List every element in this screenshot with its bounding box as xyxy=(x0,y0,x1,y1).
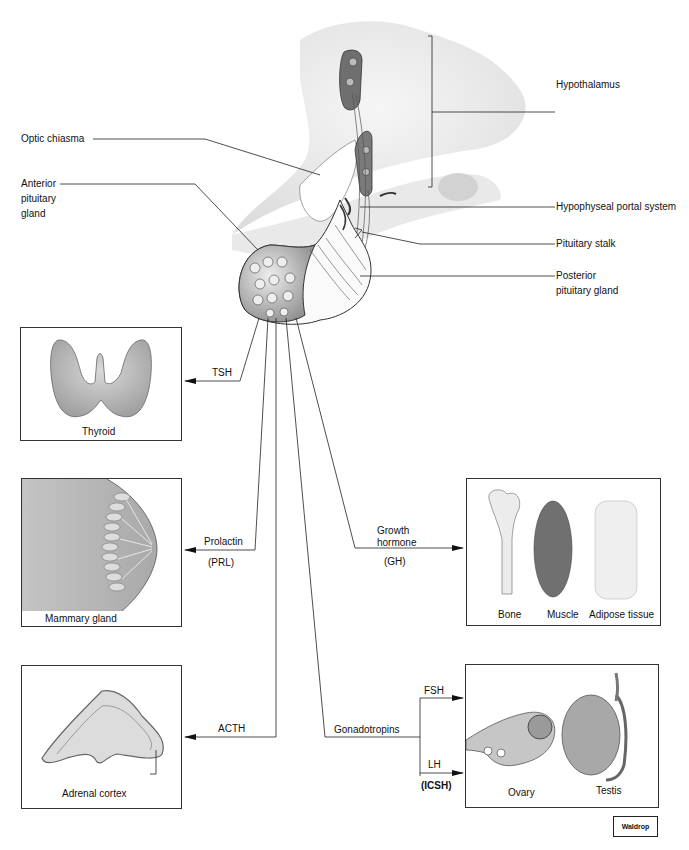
adrenal-cortex-icon xyxy=(22,666,181,808)
caption-adipose: Adipose tissue xyxy=(589,609,654,620)
label-anterior-pituitary-3: gland xyxy=(21,208,45,220)
ovary-testis-icon xyxy=(466,665,658,807)
bone-muscle-adipose-icon xyxy=(467,479,660,625)
caption-thyroid: Thyroid xyxy=(82,426,115,437)
label-hormone: hormone xyxy=(377,537,416,549)
label-acth: ACTH xyxy=(218,723,245,735)
label-anterior-pituitary-1: Anterior xyxy=(21,178,56,190)
label-anterior-pituitary-2: pituitary xyxy=(21,193,56,205)
label-gonadotropins: Gonadotropins xyxy=(334,724,400,736)
label-pituitary-stalk: Pituitary stalk xyxy=(556,238,615,250)
thyroid-box: Thyroid xyxy=(20,327,182,441)
label-prl: (PRL) xyxy=(208,557,234,569)
label-posterior-pituitary-2: pituitary gland xyxy=(556,285,618,297)
caption-ovary: Ovary xyxy=(508,787,535,798)
credit-badge: Waldrop xyxy=(613,816,658,837)
mammary-box: Mammary gland xyxy=(21,478,182,627)
growth-targets-box: Bone Muscle Adipose tissue xyxy=(466,478,661,626)
label-hypothalamus: Hypothalamus xyxy=(556,79,620,91)
brain-illustration xyxy=(232,21,526,270)
gonad-box: Ovary Testis xyxy=(465,664,659,808)
label-optic-chiasma: Optic chiasma xyxy=(21,133,84,145)
label-posterior-pituitary-1: Posterior xyxy=(556,270,596,282)
caption-mammary: Mammary gland xyxy=(45,613,117,624)
label-icsh: (ICSH) xyxy=(421,780,452,792)
label-prolactin: Prolactin xyxy=(204,536,243,548)
mammary-gland-icon xyxy=(22,479,181,626)
label-hypophyseal-portal: Hypophyseal portal system xyxy=(556,201,676,213)
caption-adrenal: Adrenal cortex xyxy=(62,788,126,799)
label-growth: Growth xyxy=(377,525,409,537)
label-fsh: FSH xyxy=(424,685,444,697)
caption-muscle: Muscle xyxy=(547,609,579,620)
caption-testis: Testis xyxy=(596,785,622,796)
thyroid-icon xyxy=(21,328,181,440)
label-lh: LH xyxy=(428,759,441,771)
label-gh: (GH) xyxy=(384,556,406,568)
caption-bone: Bone xyxy=(498,609,521,620)
adrenal-box: Adrenal cortex xyxy=(21,665,182,809)
label-tsh: TSH xyxy=(212,367,232,379)
